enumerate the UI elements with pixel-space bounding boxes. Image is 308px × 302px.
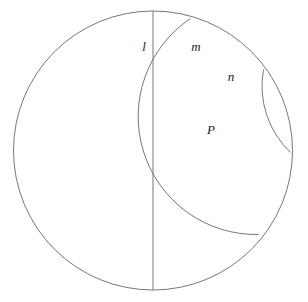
label-m: m xyxy=(191,39,200,54)
label-l: l xyxy=(142,39,146,54)
poincare-disk-canvas: l m n P xyxy=(0,0,308,302)
label-n: n xyxy=(228,69,235,84)
label-point-p: P xyxy=(206,122,215,137)
figure-background xyxy=(0,0,308,302)
poincare-disk-figure: l m n P xyxy=(0,0,308,302)
